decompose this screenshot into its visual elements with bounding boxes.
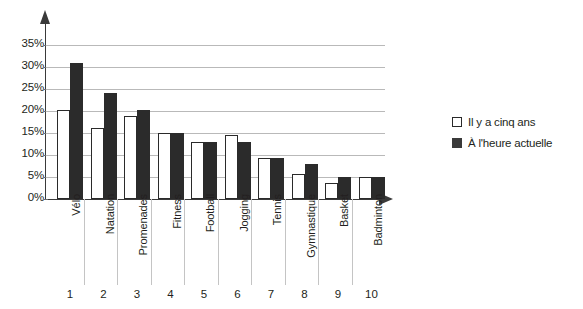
legend-label: Il y a cinq ans <box>468 116 535 128</box>
bar-il-y-a-cinq-ans[interactable] <box>292 174 305 199</box>
y-axis-tick-label: 15% <box>2 125 44 137</box>
legend-item[interactable]: À l'heure actuelle <box>452 137 580 149</box>
category-separator <box>352 199 353 285</box>
category-separator <box>117 199 118 285</box>
x-axis-label: Vélo <box>70 194 82 284</box>
bar-il-y-a-cinq-ans[interactable] <box>191 142 204 199</box>
x-axis-label: Football <box>204 194 216 284</box>
category-separator <box>285 199 286 285</box>
plot-area <box>46 45 385 199</box>
x-axis-label: Jogging <box>238 194 250 284</box>
bar-il-y-a-cinq-ans[interactable] <box>91 128 104 199</box>
bar-a-l-heure-actuelle[interactable] <box>70 63 83 199</box>
bar-il-y-a-cinq-ans[interactable] <box>158 133 171 199</box>
x-axis-index-number: 10 <box>355 288 389 300</box>
x-axis-index-number: 9 <box>321 288 355 300</box>
x-axis-label: Badminton <box>372 194 384 284</box>
x-axis-index-number: 6 <box>221 288 255 300</box>
bar-il-y-a-cinq-ans[interactable] <box>124 116 137 199</box>
black-square-icon <box>452 138 462 148</box>
x-axis-label: Fitness <box>171 194 183 284</box>
legend-label: À l'heure actuelle <box>468 137 552 149</box>
y-axis-tick-label: 25% <box>2 81 44 93</box>
category-separator <box>151 199 152 285</box>
y-axis-tick-label: 30% <box>2 59 44 71</box>
bar-il-y-a-cinq-ans[interactable] <box>359 177 372 199</box>
x-axis-index-number: 1 <box>53 288 87 300</box>
x-axis-index-number: 5 <box>187 288 221 300</box>
bar-chart-figure: 0%5%10%15%20%25%30%35% Vélo1Natation2Pro… <box>0 0 583 309</box>
bar-group[interactable] <box>322 45 356 199</box>
bar-a-l-heure-actuelle[interactable] <box>238 142 251 199</box>
bar-il-y-a-cinq-ans[interactable] <box>258 158 271 199</box>
bar-a-l-heure-actuelle[interactable] <box>171 133 184 199</box>
bar-group[interactable] <box>121 45 155 199</box>
y-axis-tick-labels: 0%5%10%15%20%25%30%35% <box>0 0 44 309</box>
bar-a-l-heure-actuelle[interactable] <box>204 142 217 199</box>
x-axis-label: Natation <box>104 194 116 284</box>
x-axis-index-number: 3 <box>120 288 154 300</box>
x-axis-index-number: 7 <box>254 288 288 300</box>
y-axis-tick-label: 20% <box>2 103 44 115</box>
x-axis-index-number: 4 <box>154 288 188 300</box>
bar-a-l-heure-actuelle[interactable] <box>137 110 150 199</box>
bar-il-y-a-cinq-ans[interactable] <box>325 183 338 199</box>
category-separator <box>218 199 219 285</box>
category-separator <box>318 199 319 285</box>
x-axis-index-number: 2 <box>87 288 121 300</box>
bar-group[interactable] <box>356 45 390 199</box>
bar-group[interactable] <box>255 45 289 199</box>
bar-il-y-a-cinq-ans[interactable] <box>57 110 70 199</box>
category-separator <box>251 199 252 285</box>
category-separator <box>184 199 185 285</box>
bar-group[interactable] <box>289 45 323 199</box>
y-axis-tick-label: 35% <box>2 37 44 49</box>
bar-group[interactable] <box>88 45 122 199</box>
y-axis-tick-mark <box>44 199 48 200</box>
x-axis-label: Basket <box>338 194 350 284</box>
bar-group[interactable] <box>54 45 88 199</box>
y-axis-tick-label: 5% <box>2 169 44 181</box>
bar-group[interactable] <box>222 45 256 199</box>
white-square-icon <box>452 117 462 127</box>
y-axis-tick-label: 10% <box>2 147 44 159</box>
x-axis-index-number: 8 <box>288 288 322 300</box>
x-axis-label: Promenades <box>137 194 149 284</box>
y-axis-tick-label: 0% <box>2 191 44 203</box>
legend-item[interactable]: Il y a cinq ans <box>452 116 580 128</box>
bar-il-y-a-cinq-ans[interactable] <box>225 135 238 199</box>
bar-group[interactable] <box>155 45 189 199</box>
bar-a-l-heure-actuelle[interactable] <box>104 93 117 199</box>
x-axis-label: Gymnastique <box>305 194 317 284</box>
category-separator <box>84 199 85 285</box>
chart-legend: Il y a cinq ansÀ l'heure actuelle <box>452 116 580 158</box>
x-axis-label: Tennis <box>271 194 283 284</box>
bar-a-l-heure-actuelle[interactable] <box>271 158 284 199</box>
bar-group[interactable] <box>188 45 222 199</box>
